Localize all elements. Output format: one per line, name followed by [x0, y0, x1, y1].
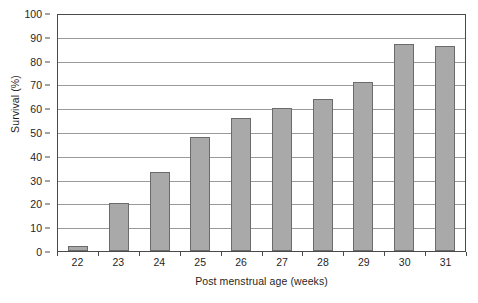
bar [68, 246, 88, 251]
y-axis-tick-mark [45, 61, 50, 62]
x-axis-tick-label: 31 [425, 256, 466, 268]
y-axis-tick-mark [45, 156, 50, 157]
x-axis-tick-label: 29 [343, 256, 384, 268]
plot-area [57, 14, 466, 252]
y-axis-tick-mark [45, 109, 50, 110]
bar-slot [180, 15, 221, 251]
bar [190, 137, 210, 251]
y-axis-tick-mark [45, 14, 50, 15]
bar-series [58, 15, 465, 251]
x-axis-tick-labels: 22232425262728293031 [57, 256, 466, 268]
y-axis-tick-label: 70 [30, 80, 42, 91]
x-axis-tick-label: 30 [384, 256, 425, 268]
bar-slot [343, 15, 384, 251]
bar-slot [424, 15, 465, 251]
y-axis-tick-label: 100 [24, 9, 42, 20]
bar [231, 118, 251, 251]
bar-slot [139, 15, 180, 251]
y-axis-tick-label: 30 [30, 175, 42, 186]
y-axis-tick-mark [45, 252, 50, 253]
x-axis-tick-label: 27 [262, 256, 303, 268]
bar [313, 99, 333, 251]
x-axis-tick-label: 22 [57, 256, 98, 268]
y-axis-tick-mark [45, 85, 50, 86]
y-axis-tick-label: 20 [30, 199, 42, 210]
x-axis-tick-label: 25 [180, 256, 221, 268]
y-axis-tick-label: 90 [30, 33, 42, 44]
y-axis-tick-label: 0 [36, 247, 42, 258]
bar [394, 44, 414, 251]
bar-slot [99, 15, 140, 251]
y-axis-tick-mark [45, 133, 50, 134]
y-axis-tick-mark [45, 180, 50, 181]
bar [435, 46, 455, 251]
bar-slot [58, 15, 99, 251]
bar-slot [384, 15, 425, 251]
y-axis-tick-label: 10 [30, 223, 42, 234]
y-axis-tick-mark [45, 37, 50, 38]
bar [272, 108, 292, 251]
bar-chart: Survival (%) 0102030405060708090100 2223… [0, 0, 478, 303]
x-axis-title: Post menstrual age (weeks) [57, 275, 466, 287]
y-axis-tick-labels: 0102030405060708090100 [0, 14, 50, 252]
y-axis-tick-label: 80 [30, 56, 42, 67]
y-axis-tick-mark [45, 204, 50, 205]
y-axis-tick-label: 40 [30, 152, 42, 163]
x-axis-tick-label: 23 [98, 256, 139, 268]
x-axis-tick-label: 26 [221, 256, 262, 268]
bar-slot [221, 15, 262, 251]
bar [150, 172, 170, 251]
bar-slot [302, 15, 343, 251]
y-axis-tick-mark [45, 228, 50, 229]
bar [109, 203, 129, 251]
x-axis-tick-label: 28 [302, 256, 343, 268]
x-axis-tick-label: 24 [139, 256, 180, 268]
y-axis-tick-label: 60 [30, 104, 42, 115]
bar-slot [262, 15, 303, 251]
y-axis-tick-label: 50 [30, 128, 42, 139]
x-axis-tick-mark [466, 252, 467, 256]
bar [353, 82, 373, 251]
